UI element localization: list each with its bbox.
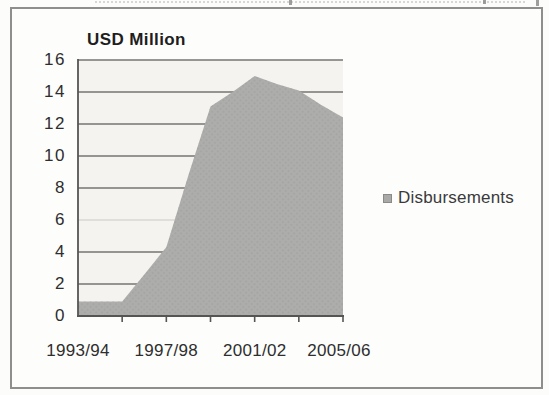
y-tick-label: 10: [20, 146, 66, 166]
figure-canvas: USD Million 0246810121416 1993/941997/98…: [0, 0, 549, 395]
y-tick-label: 6: [20, 210, 66, 230]
x-tick-label: 1997/98: [135, 342, 199, 360]
x-tick-label: 2005/06: [307, 342, 371, 360]
legend-swatch-icon: [383, 194, 392, 203]
y-tick-label: 2: [20, 274, 66, 294]
y-tick-label: 8: [20, 178, 66, 198]
y-tick-label: 4: [20, 242, 66, 262]
y-tick-label: 14: [20, 82, 66, 102]
y-tick-label: 16: [20, 50, 66, 70]
x-tick-label: 2001/02: [223, 342, 287, 360]
y-tick-label: 12: [20, 114, 66, 134]
legend: Disbursements: [383, 188, 514, 208]
legend-label: Disbursements: [398, 188, 514, 208]
x-tick-label: 1993/94: [46, 342, 110, 360]
y-tick-label: 0: [20, 306, 66, 326]
